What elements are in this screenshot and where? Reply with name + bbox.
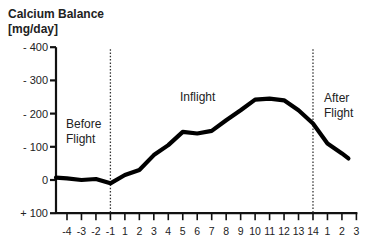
y-tick-label: + 100 xyxy=(20,207,48,219)
x-tick-label: 2 xyxy=(136,225,142,237)
x-tick-label: 3 xyxy=(151,225,157,237)
x-tick-label: 8 xyxy=(223,225,229,237)
calcium-balance-chart: - 400- 300- 200- 1000+ 100-4-3-2-1123456… xyxy=(0,0,375,248)
calcium-balance-line xyxy=(56,99,348,184)
y-tick-label: 0 xyxy=(42,174,48,186)
x-tick-label: 11 xyxy=(264,225,275,237)
x-tick-label: 5 xyxy=(180,225,186,237)
x-tick-label: 2 xyxy=(339,225,345,237)
x-tick-label: 10 xyxy=(249,225,261,237)
y-tick-label: - 200 xyxy=(23,108,48,120)
x-tick-label: 1 xyxy=(122,225,128,237)
phase-label-before: Flight xyxy=(66,132,96,146)
y-tick-label: - 100 xyxy=(23,141,48,153)
y-tick-label: - 400 xyxy=(23,41,48,53)
x-tick-label: 6 xyxy=(194,225,200,237)
phase-label-after: After xyxy=(324,91,349,105)
x-tick-label: -4 xyxy=(62,225,71,237)
phase-label-after: Flight xyxy=(324,106,354,120)
x-tick-label: -1 xyxy=(106,225,115,237)
x-tick-label: 4 xyxy=(165,225,171,237)
x-tick-label: 1 xyxy=(325,225,331,237)
phase-label-inflight: Inflight xyxy=(180,90,216,104)
phase-label-before: Before xyxy=(66,117,102,131)
x-tick-label: 14 xyxy=(307,225,319,237)
x-tick-label: 7 xyxy=(209,225,215,237)
x-tick-label: 13 xyxy=(293,225,305,237)
x-tick-label: 3 xyxy=(353,225,359,237)
x-tick-label: -3 xyxy=(77,225,86,237)
y-tick-label: - 300 xyxy=(23,74,48,86)
x-tick-label: 9 xyxy=(238,225,244,237)
x-tick-label: -2 xyxy=(91,225,100,237)
x-tick-label: 12 xyxy=(278,225,290,237)
